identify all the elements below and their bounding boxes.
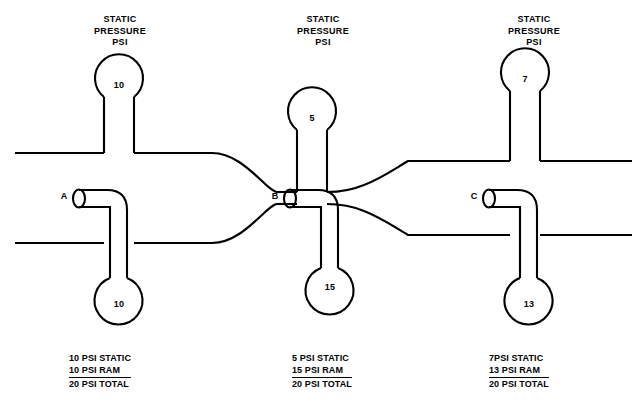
summary-a-total: 20 PSI TOTAL [69,378,131,391]
summary-b-ram: 15 PSI RAM [292,364,352,378]
summary-b-total: 20 PSI TOTAL [292,378,352,391]
total-gauge-a-value: 10 [99,299,139,309]
total-gauge-c-value: 13 [509,299,549,309]
upper-wall-contraction [134,153,276,192]
summary-table-a: 10 PSI STATIC 10 PSI RAM 20 PSI TOTAL [69,352,131,390]
summary-a-static: 10 PSI STATIC [69,352,131,364]
static-gauge-a-value: 10 [99,80,139,90]
summary-c-total: 20 PSI TOTAL [489,378,549,391]
total-gauge-b-value: 15 [310,282,350,292]
static-gauge-b-value: 5 [292,113,332,123]
venturi-drawing [0,0,643,402]
pitot-b-inner-wall [290,207,321,268]
pitot-label-a: A [57,191,71,201]
static-gauge-c-bulb [501,48,549,91]
static-header-b: STATIC PRESSURE PSI [277,14,369,49]
pitot-c-mouth [483,190,495,208]
upper-wall-expansion [327,161,430,192]
summary-c-ram: 13 PSI RAM [489,364,549,378]
pitot-a-mouth [73,190,85,208]
lower-wall-expansion [327,204,430,235]
static-gauge-b-bulb [288,87,336,130]
pitot-a-outer-wall [79,190,127,278]
pitot-b-outer-wall [290,190,338,268]
static-header-a: STATIC PRESSURE PSI [74,14,166,49]
summary-b-static: 5 PSI STATIC [292,352,352,364]
summary-table-c: 7PSI STATIC 13 PSI RAM 20 PSI TOTAL [489,352,549,390]
summary-a-ram: 10 PSI RAM [69,364,131,378]
static-gauge-c-value: 7 [505,74,545,84]
pitot-label-c: C [467,191,481,201]
summary-table-b: 5 PSI STATIC 15 PSI RAM 20 PSI TOTAL [292,352,352,390]
venturi-diagram: STATIC PRESSURE PSI STATIC PRESSURE PSI … [0,0,643,402]
pitot-c-inner-wall [489,207,520,278]
pitot-label-b: B [268,191,282,201]
static-header-c: STATIC PRESSURE PSI [488,14,580,49]
summary-c-static: 7PSI STATIC [489,352,549,364]
lower-wall-contraction [134,204,276,243]
static-gauge-a-bulb [95,54,143,97]
